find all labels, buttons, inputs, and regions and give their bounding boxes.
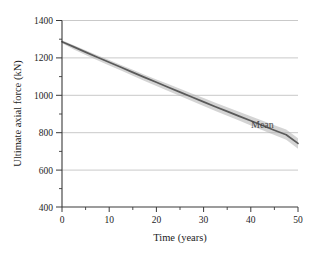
x-axis-title: Time (years): [153, 232, 207, 244]
y-tick-label-1000: 1000: [34, 91, 53, 101]
y-axis-title: Ultimate axial force (kN): [12, 60, 24, 167]
x-tick-label-30: 30: [199, 215, 209, 225]
x-tick-label-0: 0: [60, 215, 65, 225]
mean-series-label: Mean: [251, 119, 274, 130]
ultimate-axial-force-vs-time-chart: 1400 1200 1000 800 600 400 0 10 20 30 40…: [0, 0, 309, 254]
y-tick-label-600: 600: [39, 166, 54, 176]
x-tick-label-40: 40: [246, 215, 256, 225]
y-tick-label-800: 800: [39, 128, 54, 138]
y-tick-label-400: 400: [39, 203, 54, 213]
x-tick-label-10: 10: [104, 215, 114, 225]
y-tick-label-1400: 1400: [34, 16, 53, 26]
chart-figure: 1400 1200 1000 800 600 400 0 10 20 30 40…: [0, 0, 309, 254]
x-tick-label-20: 20: [152, 215, 162, 225]
x-tick-label-50: 50: [293, 215, 303, 225]
y-tick-label-1200: 1200: [34, 53, 53, 63]
